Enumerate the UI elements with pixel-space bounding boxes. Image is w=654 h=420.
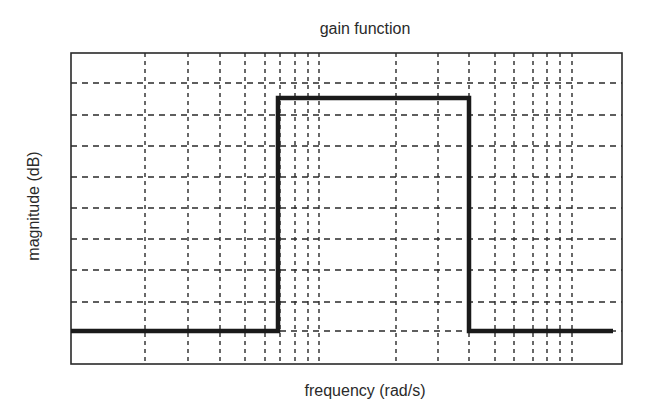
horizontal-gridlines [71,83,622,331]
gain-series-line [71,98,613,331]
y-axis-label: magnitude (dB) [25,151,43,260]
chart-canvas [0,0,654,420]
chart-title: gain function [0,20,654,38]
x-axis-label: frequency (rad/s) [0,382,654,400]
